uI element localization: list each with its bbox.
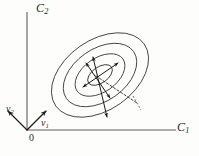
figure-container: C2 C1 v2 v1 0 [0,0,199,156]
axis-group [27,12,177,131]
origin-label: 0 [29,133,34,143]
eigenvector-label-v2-base: v [6,103,10,114]
outer-contour-tick [133,96,141,110]
axis-label-c2-subscript: 2 [44,7,48,16]
axis-label-c2: C2 [36,2,48,16]
eigenvector-label-v1: v1 [41,118,49,130]
axis-label-c2-base: C [36,1,44,15]
axis-label-c1-base: C [177,120,185,134]
eigenvector-label-v2-subscript: 2 [11,108,14,115]
eigenvector-label-v1-base: v [41,117,45,128]
axis-label-c1-subscript: 1 [185,126,189,135]
axis-label-c1: C1 [177,121,189,135]
eigenvector-label-v1-subscript: 1 [46,122,49,129]
eigenvector-label-v2: v2 [6,104,14,116]
